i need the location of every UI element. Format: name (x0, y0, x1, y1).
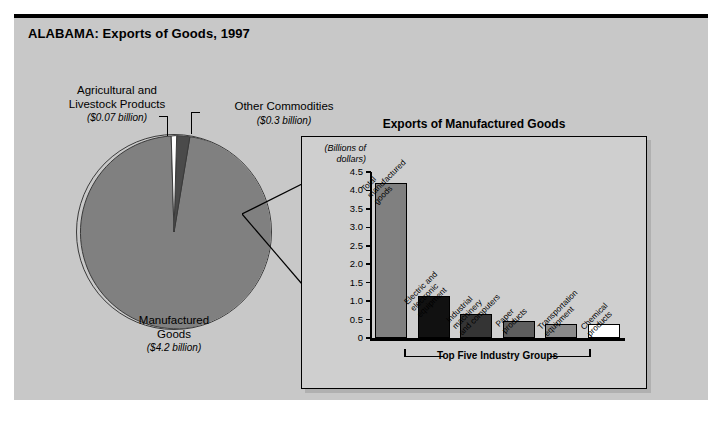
y-tick-0.5 (366, 319, 371, 321)
y-tick-2.5 (366, 245, 371, 247)
y-tick-3.0 (366, 227, 371, 229)
pie-label-agricultural-amount: ($0.07 billion) (32, 111, 202, 125)
y-tick-label-3.0: 3.0 (323, 221, 363, 232)
pie-label-manufactured: Manufactured Goods ($4.2 billion) (74, 314, 274, 355)
inset-title: Exports of Manufactured Goods (301, 117, 647, 131)
y-tick-label-3.5: 3.5 (323, 203, 363, 214)
pie-label-agricultural: Agricultural and Livestock Products ($0.… (32, 84, 202, 125)
y-tick-1.0 (366, 300, 371, 302)
page-title: ALABAMA: Exports of Goods, 1997 (28, 26, 250, 41)
title-rule (14, 14, 708, 18)
pie-label-manufactured-line1: Manufactured (74, 314, 274, 328)
y-tick-4.5 (366, 171, 371, 173)
bracket-label: Top Five Industry Groups (370, 350, 625, 361)
x-axis-line (370, 338, 625, 341)
pie-label-other-line1: Other Commodities (204, 100, 364, 114)
y-tick-label-2.5: 2.5 (323, 240, 363, 251)
y-tick-1.5 (366, 282, 371, 284)
y-tick-0 (366, 337, 371, 339)
y-tick-label-1.5: 1.5 (323, 277, 363, 288)
y-tick-2.0 (366, 263, 371, 265)
industry-group-bracket: Top Five Industry Groups (370, 349, 625, 369)
y-tick-3.5 (366, 208, 371, 210)
pie-label-manufactured-line2: Goods (74, 328, 274, 342)
y-axis-units-label: (Billions of dollars) (306, 143, 366, 164)
y-axis-units-line1: (Billions of (306, 143, 366, 154)
bar-plot-area: 00.51.01.52.02.53.03.54.04.5 Totalmanufa… (370, 172, 625, 338)
y-tick-label-4.0: 4.0 (323, 184, 363, 195)
y-tick-label-0.5: 0.5 (323, 314, 363, 325)
pie-label-agricultural-line1: Agricultural and (32, 84, 202, 98)
y-tick-label-2.0: 2.0 (323, 258, 363, 269)
y-tick-label-4.5: 4.5 (323, 166, 363, 177)
inset-panel: (Billions of dollars) 00.51.01.52.02.53.… (301, 136, 647, 389)
pie-label-agricultural-line2: Livestock Products (32, 98, 202, 112)
callout-connector (242, 184, 308, 294)
y-axis-units-line2: dollars) (306, 154, 366, 165)
bar-total-manufactured-goods (375, 183, 407, 338)
figure-panel: ALABAMA: Exports of Goods, 1997 Agricult… (14, 14, 708, 400)
y-tick-label-0: 0 (323, 332, 363, 343)
pie-label-manufactured-amount: ($4.2 billion) (74, 341, 274, 355)
y-tick-label-1.0: 1.0 (323, 295, 363, 306)
